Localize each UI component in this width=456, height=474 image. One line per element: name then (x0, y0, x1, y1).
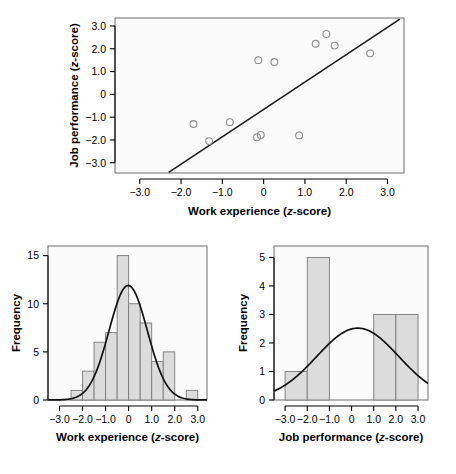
scatter-x-tick-label: −2.0 (171, 186, 192, 198)
histogram-y-tick-label: 2 (259, 337, 265, 349)
histogram-x-tick-label: 1.0 (366, 413, 381, 425)
histogram-y-tick-label: 0 (33, 394, 39, 406)
histogram-y-tick-label: 10 (27, 298, 39, 310)
statistics-figure: 3.02.01.00−1.0−2.0−3.0−3.0−2.0−1.001.02.… (0, 0, 456, 474)
histogram-x-tick-label: −1.0 (95, 413, 116, 425)
svg-text:Job performance (z-score): Job performance (z-score) (279, 431, 424, 443)
histogram-y-tick-label: 4 (259, 280, 265, 292)
scatter-x-tick-label: 1.0 (298, 186, 313, 198)
scatter-y-axis-title: Job performance (z-score) (68, 23, 80, 168)
histogram-x-tick-label: −3.0 (49, 413, 70, 425)
histogram-y-tick-label: 0 (259, 394, 265, 406)
work-experience-x-axis-title: Work experience (z-score) (56, 431, 199, 443)
scatter-plot-panel: 3.02.01.00−1.0−2.0−3.0−3.0−2.0−1.001.02.… (0, 0, 456, 218)
scatter-y-tick-label: −2.0 (85, 134, 106, 146)
work-experience-histogram-panel: 051015−3.0−2.0−1.001.02.03.0Work experie… (0, 228, 228, 474)
scatter-x-axis: −3.0−2.0−1.001.02.03.0 (129, 179, 395, 198)
job-performance-y-axis: 012345 (259, 251, 274, 406)
scatter-x-tick-label: 2.0 (339, 186, 354, 198)
scatter-x-tick-label: −3.0 (129, 186, 150, 198)
histogram-y-tick-label: 3 (259, 308, 265, 320)
scatter-x-tick-label: 3.0 (380, 186, 395, 198)
work-experience-y-axis-title: Frequency (10, 293, 22, 352)
histogram-x-tick-label: 1.0 (144, 413, 159, 425)
histogram-y-tick-label: 1 (259, 365, 265, 377)
scatter-x-tick-label: 0 (261, 186, 267, 198)
scatter-plot-area (115, 18, 404, 173)
histogram-x-tick-label: 2.0 (389, 413, 404, 425)
histogram-x-tick-label: −1.0 (319, 413, 340, 425)
job-performance-histogram-svg: 012345−3.0−2.0−1.001.02.03.0Job performa… (228, 228, 456, 474)
scatter-y-tick-label: 1.0 (91, 65, 106, 77)
histogram-bar (106, 333, 118, 400)
histogram-bar (374, 314, 396, 400)
work-experience-histogram-svg: 051015−3.0−2.0−1.001.02.03.0Work experie… (0, 228, 228, 474)
scatter-y-axis: 3.02.01.00−1.0−2.0−3.0 (85, 20, 115, 169)
histogram-x-tick-label: 0 (126, 413, 132, 425)
scatter-y-tick-label: 2.0 (91, 43, 106, 55)
histogram-bar (152, 362, 164, 401)
scatter-y-tick-label: 3.0 (91, 20, 106, 32)
histogram-x-tick-label: −2.0 (297, 413, 318, 425)
work-experience-y-axis: 051015 (27, 249, 48, 405)
histogram-x-tick-label: 2.0 (167, 413, 182, 425)
svg-text:Work experience (z-score): Work experience (z-score) (188, 205, 331, 217)
histogram-bar (129, 304, 141, 400)
scatter-y-tick-label: −1.0 (85, 111, 106, 123)
histogram-x-tick-label: 0 (349, 413, 355, 425)
histogram-x-tick-label: −2.0 (72, 413, 93, 425)
histogram-y-tick-label: 15 (27, 249, 39, 261)
scatter-y-tick-label: −3.0 (85, 157, 106, 169)
histogram-bar (140, 323, 152, 400)
histogram-y-tick-label: 5 (33, 346, 39, 358)
work-experience-x-axis: −3.0−2.0−1.001.02.03.0 (49, 406, 205, 425)
histogram-bar (307, 257, 329, 400)
svg-text:Work experience (z-score): Work experience (z-score) (56, 431, 199, 443)
histogram-x-tick-label: −3.0 (275, 413, 296, 425)
histogram-y-tick-label: 5 (259, 251, 265, 263)
scatter-y-tick-label: 0 (100, 88, 106, 100)
job-performance-x-axis-title: Job performance (z-score) (279, 431, 424, 443)
histogram-x-tick-label: 3.0 (190, 413, 205, 425)
histogram-bar (117, 256, 129, 400)
scatter-x-tick-label: −1.0 (212, 186, 233, 198)
histogram-x-tick-label: 3.0 (411, 413, 426, 425)
scatter-plot-svg: 3.02.01.00−1.0−2.0−3.0−3.0−2.0−1.001.02.… (0, 0, 456, 218)
job-performance-y-axis-title: Frequency (237, 293, 249, 352)
scatter-x-axis-title: Work experience (z-score) (188, 205, 331, 217)
job-performance-x-axis: −3.0−2.0−1.001.02.03.0 (275, 406, 426, 425)
job-performance-histogram-panel: 012345−3.0−2.0−1.001.02.03.0Job performa… (228, 228, 456, 474)
svg-text:Job performance (z-score): Job performance (z-score) (68, 23, 80, 168)
